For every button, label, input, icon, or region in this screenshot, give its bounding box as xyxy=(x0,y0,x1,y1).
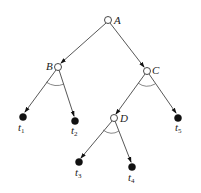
label-A: A xyxy=(113,14,121,26)
edge-B-t1 xyxy=(25,70,56,112)
and-arc-D xyxy=(103,130,119,133)
node-t3 xyxy=(76,159,83,166)
edge-C-t5 xyxy=(149,74,176,113)
label-C: C xyxy=(152,64,160,76)
edge-A-C xyxy=(110,23,144,67)
node-D xyxy=(111,115,118,122)
label-t1: t1 xyxy=(18,121,25,135)
label-t3: t3 xyxy=(75,166,82,180)
edges xyxy=(25,23,176,162)
edge-C-D xyxy=(116,74,145,114)
node-A xyxy=(105,17,112,24)
label-t4: t4 xyxy=(128,171,135,185)
edge-D-t3 xyxy=(81,121,112,158)
label-t2: t2 xyxy=(71,124,78,138)
and-arc-C xyxy=(138,83,155,86)
node-t1 xyxy=(20,114,27,121)
label-t5: t5 xyxy=(175,121,182,135)
label-B: B xyxy=(46,60,53,72)
and-arc-B xyxy=(46,82,64,86)
and-or-tree-diagram: A B C D t1 t2 t3 t4 t5 xyxy=(0,0,201,193)
node-C xyxy=(144,68,151,75)
label-D: D xyxy=(119,112,128,124)
edge-A-B xyxy=(61,23,106,63)
edge-D-t4 xyxy=(115,121,131,162)
edge-B-t2 xyxy=(59,70,74,116)
node-t4 xyxy=(129,164,136,171)
node-B xyxy=(55,64,62,71)
